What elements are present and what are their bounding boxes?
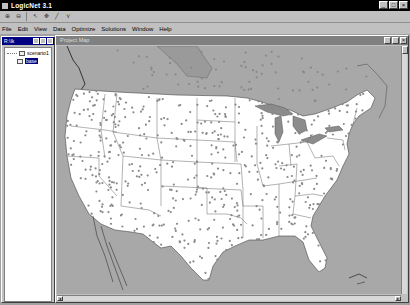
menu-solutions[interactable]: Solutions [101,26,126,32]
folder-icon [17,59,23,64]
toolbar: ⊕ ⊖ ↖ ✥ ╱ ⋎ [0,11,410,23]
menu-optimize[interactable]: Optimize [72,26,96,32]
folder-icon [19,51,25,56]
tree-item-scenario1[interactable]: scenario1 [7,50,49,56]
map-close-button[interactable]: × [400,37,407,44]
logicnet-app: LogicNet 3.1 _ □ × ⊕ ⊖ ↖ ✥ ╱ ⋎ File Edit… [0,0,410,305]
map-window-title: Project Map [60,37,89,43]
menu-file[interactable]: File [2,26,12,32]
toolbar-separator [26,12,27,21]
tree-close-button[interactable] [47,38,53,44]
menu-window[interactable]: Window [132,26,153,32]
vertical-scrollbar[interactable] [401,46,407,294]
map-window-titlebar[interactable]: Project Map × [56,36,408,45]
tree-window-titlebar[interactable]: R:\Ik [2,37,54,45]
pan-icon[interactable]: ✥ [41,12,51,21]
minimize-button[interactable]: _ [379,1,388,9]
map-minimize-button[interactable] [384,37,391,44]
scroll-corner [401,295,407,301]
zoom-in-icon[interactable]: ⊕ [2,12,12,21]
scroll-left-arrow[interactable]: ◂ [57,296,63,301]
map-canvas[interactable] [57,46,401,294]
draw-icon[interactable]: ╱ [52,12,62,21]
tree-item-label: scenario1 [27,50,49,56]
route-icon[interactable]: ⋎ [63,12,73,21]
menu-view[interactable]: View [34,26,47,32]
tree-minimize-button[interactable] [33,38,39,44]
tree-maximize-button[interactable] [40,38,46,44]
menu-data[interactable]: Data [53,26,66,32]
menu-bar: File Edit View Data Optimize Solutions W… [0,23,410,34]
menu-edit[interactable]: Edit [18,26,28,32]
map-maximize-button[interactable] [392,37,399,44]
project-map-window: Project Map × [55,35,409,303]
mdi-workspace: R:\Ik scenario1 base [0,34,410,305]
maximize-button[interactable]: □ [389,1,398,9]
tree-item-label: base [25,58,38,64]
scenario-tree: scenario1 base [4,47,52,302]
tree-connector [7,53,17,54]
close-button[interactable]: × [399,1,408,9]
app-icon[interactable] [2,3,8,9]
scenario-tree-window: R:\Ik scenario1 base [1,36,55,303]
title-bar: LogicNet 3.1 _ □ × [0,0,410,11]
us-map[interactable] [57,46,401,294]
select-icon[interactable]: ↖ [30,12,40,21]
menu-help[interactable]: Help [159,26,171,32]
tree-window-title: R:\Ik [4,37,14,45]
zoom-out-icon[interactable]: ⊖ [13,12,23,21]
horizontal-scrollbar[interactable]: ◂ ▸ [57,295,401,301]
app-title: LogicNet 3.1 [11,2,52,9]
tree-item-base[interactable]: base [17,58,38,64]
scroll-up-arrow[interactable] [402,46,408,54]
